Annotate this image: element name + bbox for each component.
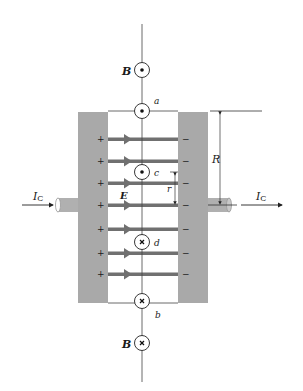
left-wire	[56, 198, 80, 212]
svg-text:R: R	[211, 153, 220, 166]
svg-text:+: +	[97, 248, 105, 258]
current-right-arrow: IC	[241, 190, 282, 205]
svg-text:+: +	[97, 224, 105, 234]
svg-text:+: +	[97, 200, 105, 210]
point-b-label: b	[155, 310, 161, 320]
svg-text:r: r	[167, 184, 172, 194]
b-symbol-top-dot	[135, 63, 150, 78]
svg-text:+: +	[97, 134, 105, 144]
svg-text:−: −	[182, 178, 190, 188]
svg-text:−: −	[182, 269, 190, 279]
svg-text:IC: IC	[255, 190, 266, 203]
dot-icon	[140, 170, 144, 174]
point-c-label: c	[154, 168, 159, 178]
b-symbol-a-dot	[135, 104, 150, 119]
e-field-line	[108, 134, 178, 145]
svg-text:+: +	[97, 178, 105, 188]
svg-text:−: −	[182, 248, 190, 258]
b-symbol-bottom-cross	[135, 336, 150, 351]
b-symbol-c-dot	[135, 165, 150, 180]
svg-text:+: +	[97, 156, 105, 166]
e-field-line	[108, 200, 178, 211]
e-field-line	[108, 269, 178, 280]
svg-text:−: −	[182, 134, 190, 144]
svg-text:−: −	[182, 224, 190, 234]
b-label-top: B	[121, 65, 131, 78]
e-field-lines	[108, 134, 178, 280]
svg-text:−: −	[182, 156, 190, 166]
svg-text:IC: IC	[32, 190, 43, 203]
radius-r-small-dimension: r	[167, 172, 178, 203]
positive-charges: + + + + + + +	[97, 134, 105, 279]
point-d-label: d	[154, 238, 160, 248]
b-symbol-d-cross	[135, 235, 150, 250]
b-label-bottom: B	[121, 338, 131, 351]
dot-icon	[140, 68, 144, 72]
e-field-line	[108, 224, 178, 235]
dot-icon	[140, 109, 144, 113]
point-a-label: a	[154, 96, 159, 106]
e-field-label: E	[119, 190, 128, 201]
radius-r-big-dimension: R	[208, 111, 262, 205]
svg-text:−: −	[182, 200, 190, 210]
svg-text:+: +	[97, 269, 105, 279]
current-left-arrow: IC	[22, 190, 53, 205]
capacitor-diagram: + + + + + + + − − − − − − −	[0, 0, 303, 391]
negative-charges: − − − − − − −	[182, 134, 190, 279]
b-symbol-b-cross	[135, 294, 150, 309]
